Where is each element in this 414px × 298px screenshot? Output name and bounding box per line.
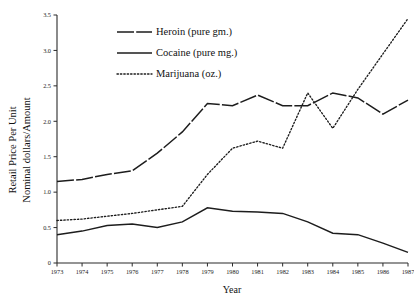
x-tick-label: 1983 bbox=[301, 268, 314, 275]
x-tick-label: 1976 bbox=[126, 268, 139, 275]
y-axis-title-line1: Retail Price Per Unit bbox=[7, 106, 18, 193]
x-tick-label: 1977 bbox=[151, 268, 164, 275]
y-axis: 00.51.01.52.02.53.03.5 bbox=[43, 11, 57, 266]
x-axis-title: Year bbox=[223, 284, 242, 295]
x-axis-ticks: 1973197419751976197719781979198019811982… bbox=[51, 263, 414, 275]
x-tick-label: 1973 bbox=[51, 268, 64, 275]
legend-item-heroin: Heroin (pure gm.) bbox=[117, 26, 233, 38]
y-tick-label: 2.5 bbox=[43, 82, 51, 89]
y-tick-label: 3.0 bbox=[43, 47, 51, 54]
x-tick-label: 1987 bbox=[402, 268, 414, 275]
x-tick-label: 1974 bbox=[76, 268, 89, 275]
x-tick-label: 1986 bbox=[377, 268, 390, 275]
y-axis-ticks: 00.51.01.52.02.53.03.5 bbox=[43, 11, 57, 266]
series-line-cocaine bbox=[57, 208, 408, 253]
x-tick-label: 1985 bbox=[352, 268, 365, 275]
y-axis-title-line2: Nominal dollars/Amount bbox=[21, 97, 32, 202]
x-tick-label: 1975 bbox=[101, 268, 114, 275]
legend-item-cocaine: Cocaine (pure mg.) bbox=[117, 47, 238, 59]
y-tick-label: 1.5 bbox=[43, 153, 51, 160]
y-tick-label: 1.0 bbox=[43, 188, 51, 195]
line-chart-plot: Retail Price Per Unit Nominal dollars/Am… bbox=[0, 0, 414, 298]
x-tick-label: 1981 bbox=[251, 268, 264, 275]
y-axis-title: Retail Price Per Unit Nominal dollars/Am… bbox=[7, 97, 32, 202]
x-tick-label: 1980 bbox=[226, 268, 239, 275]
x-tick-label: 1979 bbox=[201, 268, 214, 275]
legend-label: Heroin (pure gm.) bbox=[156, 26, 233, 38]
x-tick-label: 1982 bbox=[276, 268, 289, 275]
x-tick-label: 1978 bbox=[176, 268, 189, 275]
series-line-heroin bbox=[57, 93, 408, 182]
y-tick-label: 0.5 bbox=[43, 224, 51, 231]
y-tick-label: 2.0 bbox=[43, 118, 51, 125]
chart-container: Retail Price Per Unit Nominal dollars/Am… bbox=[0, 0, 414, 298]
x-axis: 1973197419751976197719781979198019811982… bbox=[51, 263, 414, 275]
legend-label: Marijuana (oz.) bbox=[156, 68, 222, 80]
chart-legend: Heroin (pure gm.)Cocaine (pure mg.)Marij… bbox=[117, 26, 238, 80]
y-tick-label: 0 bbox=[48, 259, 51, 266]
x-tick-label: 1984 bbox=[326, 268, 339, 275]
y-tick-label: 3.5 bbox=[43, 11, 51, 18]
legend-item-marijuana: Marijuana (oz.) bbox=[117, 68, 222, 80]
legend-label: Cocaine (pure mg.) bbox=[156, 47, 238, 59]
